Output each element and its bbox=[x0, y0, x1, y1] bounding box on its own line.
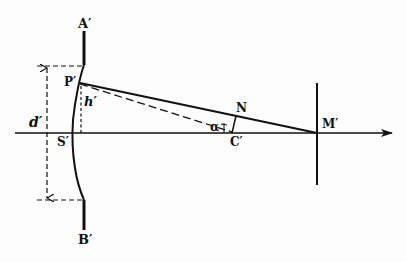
label-d: d′ bbox=[29, 114, 43, 130]
label-P: P′ bbox=[64, 75, 76, 89]
angle-mark-top bbox=[221, 124, 227, 125]
label-N: N bbox=[236, 101, 247, 115]
label-C: C′ bbox=[230, 135, 243, 149]
label-h: h′ bbox=[84, 94, 97, 109]
ray-P-M bbox=[80, 83, 317, 133]
perpendicular-C-N bbox=[232, 116, 236, 133]
label-alpha: α bbox=[210, 120, 219, 134]
label-A: A′ bbox=[77, 16, 92, 31]
label-S: S′ bbox=[57, 135, 69, 149]
diagram-canvas: A′ B′ P′ S′ N C′ M′ d′ h′ α bbox=[0, 0, 407, 262]
label-B: B′ bbox=[78, 232, 93, 247]
label-M: M′ bbox=[322, 117, 338, 131]
optics-diagram: A′ B′ P′ S′ N C′ M′ d′ h′ α bbox=[0, 0, 407, 262]
